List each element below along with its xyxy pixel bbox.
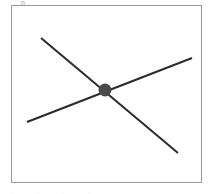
plot-canvas [0, 0, 208, 194]
series-layer [27, 38, 192, 153]
points-layer [99, 84, 112, 97]
chart-line [41, 38, 178, 153]
bottom-text-artifact: . . . . [12, 188, 202, 194]
chart-point-marker [99, 84, 112, 97]
figure-root: n . . . . [0, 0, 208, 194]
